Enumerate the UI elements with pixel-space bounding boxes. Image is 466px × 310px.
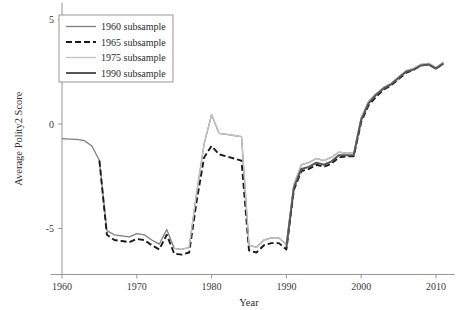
chart-container: 50-5196019701980199020002010 YearAverage… — [0, 0, 466, 310]
y-tick-label: 5 — [49, 14, 54, 25]
x-tick-label: 1960 — [52, 281, 72, 292]
legend-label-1960: 1960 subsample — [101, 21, 166, 32]
series-line-1965 — [99, 63, 443, 254]
x-axis-title: Year — [239, 297, 259, 308]
x-tick-label: 1970 — [127, 281, 147, 292]
x-tick-label: 2000 — [351, 281, 371, 292]
y-tick-label: -5 — [46, 223, 54, 234]
chart-legend: 1960 subsample1965 subsample1975 subsamp… — [59, 15, 173, 82]
x-tick-label: 1980 — [202, 281, 222, 292]
series-line-1960 — [62, 62, 443, 249]
polity2-line-chart: 50-5196019701980199020002010 YearAverage… — [0, 0, 466, 310]
series-line-1990 — [286, 63, 443, 247]
series-line-1975 — [174, 62, 443, 249]
legend-label-1975: 1975 subsample — [101, 52, 166, 63]
legend-label-1965: 1965 subsample — [101, 37, 166, 48]
y-axis-title: Average Polity2 Score — [13, 91, 24, 186]
y-tick-label: 0 — [49, 119, 54, 130]
x-tick-label: 2010 — [426, 281, 446, 292]
x-tick-label: 1990 — [276, 281, 296, 292]
legend-label-1990: 1990 subsample — [101, 68, 166, 79]
data-series-group — [62, 62, 443, 254]
